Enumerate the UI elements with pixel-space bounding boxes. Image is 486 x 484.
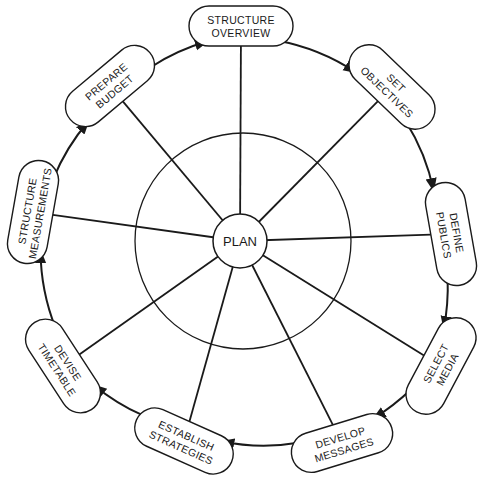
plan-label: PLAN	[223, 234, 257, 249]
node-define-publics[interactable]: DEFINEPUBLICS	[422, 179, 479, 288]
spoke-structure-overview	[240, 46, 241, 241]
center-hub[interactable]: PLAN	[213, 214, 267, 268]
spoke-select-media	[240, 241, 424, 355]
node-shape	[57, 37, 162, 134]
flow-arrow-develop-messages-to-establish-strategies	[222, 441, 300, 445]
node-shape	[18, 311, 108, 420]
node-label: OVERVIEW	[212, 27, 271, 39]
node-develop-messages[interactable]: DEVELOPMESSAGES	[286, 409, 397, 478]
node-structure-measurements[interactable]: STRUCTUREMEASUREMENTS	[4, 157, 61, 266]
spoke-structure-measurements	[53, 215, 240, 241]
node-shape	[128, 402, 239, 481]
planning-cycle-diagram: PLAN STRUCTUREOVERVIEWSETOBJECTIVESDEFIN…	[0, 0, 486, 484]
node-prepare-budget[interactable]: PREPAREBUDGET	[57, 37, 162, 134]
spoke-devise-timetable	[79, 241, 240, 354]
node-devise-timetable[interactable]: DEVISETIMETABLE	[18, 311, 108, 420]
flow-arrow-structure-overview-to-set-objectives	[277, 40, 356, 72]
node-establish-strategies[interactable]: ESTABLISHSTRATEGIES	[128, 402, 239, 481]
flow-arrow-structure-measurements-to-prepare-budget	[53, 121, 88, 178]
node-shape	[189, 6, 293, 46]
flow-arrow-set-objectives-to-define-publics	[406, 121, 434, 190]
node-structure-overview[interactable]: STRUCTUREOVERVIEW	[189, 6, 293, 46]
node-shape	[286, 409, 397, 478]
node-select-media[interactable]: SELECTMEDIA	[399, 311, 483, 422]
flow-arrow-prepare-budget-to-structure-overview	[150, 41, 208, 67]
flow-arrow-devise-timetable-to-structure-measurements	[41, 251, 56, 328]
node-shape	[422, 179, 479, 288]
node-shape	[399, 311, 483, 422]
flow-arrow-establish-strategies-to-devise-timetable	[94, 385, 142, 415]
spoke-set-objectives	[240, 101, 378, 241]
spoke-define-publics	[240, 235, 431, 241]
spoke-establish-strategies	[189, 241, 240, 422]
node-label: STRUCTURE	[207, 14, 274, 26]
spoke-develop-messages	[240, 241, 333, 425]
